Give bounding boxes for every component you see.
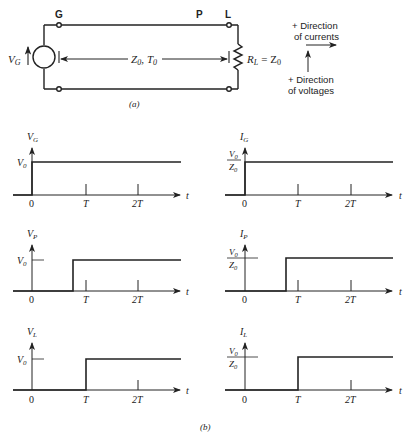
line-parameters-label: Z0,T0 xyxy=(131,53,157,67)
y-label: VP xyxy=(27,228,38,241)
node-label-p: P xyxy=(196,9,203,20)
legend-voltages-line2: of voltages xyxy=(288,85,334,96)
tick-2t: 2T xyxy=(345,198,357,209)
plot-ig: IG V0 Z0 t 0 T 2T xyxy=(225,131,402,209)
legend-voltages-line1: + Direction xyxy=(288,74,334,85)
x-label: t xyxy=(186,385,189,396)
tick-2t: 2T xyxy=(345,294,357,305)
level-denominator: Z0 xyxy=(229,260,238,271)
tick-0: 0 xyxy=(242,294,247,305)
tick-t: T xyxy=(83,294,90,305)
waveform-vl xyxy=(13,359,181,390)
waveform-ig xyxy=(225,162,393,195)
tick-2t: 2T xyxy=(345,394,357,405)
level-numerator: V0 xyxy=(229,149,239,160)
plot-vl: VL V0 t 0 T 2T xyxy=(13,326,189,405)
level-denominator: Z0 xyxy=(229,162,238,173)
terminal-l-bottom xyxy=(227,87,232,92)
y-label: IL xyxy=(239,326,247,339)
waveform-ip xyxy=(225,258,393,291)
figure: G P L VG Z0,T0 RL= Z0 + Direction of cur… xyxy=(0,0,415,440)
plot-vp: VP V0 t 0 T 2T xyxy=(13,228,189,305)
waveform-vp xyxy=(13,260,181,291)
tick-0: 0 xyxy=(242,394,247,405)
x-label: t xyxy=(399,190,402,201)
node-label-g: G xyxy=(55,9,63,20)
tick-t: T xyxy=(83,394,90,405)
level-label: V0 xyxy=(17,255,27,268)
tick-t: T xyxy=(83,198,90,209)
waveform-il xyxy=(225,357,393,390)
tick-2t: 2T xyxy=(132,294,144,305)
tick-t: T xyxy=(295,394,302,405)
tick-0: 0 xyxy=(29,394,34,405)
x-label: t xyxy=(186,286,189,297)
level-label: V0 xyxy=(17,354,27,367)
tick-0: 0 xyxy=(29,294,34,305)
tick-2t: 2T xyxy=(132,198,144,209)
level-label: V0 xyxy=(17,157,27,170)
x-label: t xyxy=(399,286,402,297)
terminal-l-top xyxy=(227,23,232,28)
load-label: RL= Z0 xyxy=(246,53,281,67)
waveform-vg xyxy=(13,162,181,195)
plot-ip: IP V0 Z0 t 0 T 2T xyxy=(225,228,402,305)
tick-t: T xyxy=(295,294,302,305)
source-label: VG xyxy=(8,53,21,67)
legend-currents-line1: + Direction xyxy=(292,20,338,31)
load-resistor-icon xyxy=(234,44,242,70)
caption-a: (a) xyxy=(129,99,140,109)
tick-t: T xyxy=(295,198,302,209)
legend-currents-line2: of currents xyxy=(294,31,339,42)
terminal-g-bottom xyxy=(57,87,62,92)
voltage-source-icon xyxy=(33,46,55,68)
y-label: VG xyxy=(27,131,38,144)
tick-2t: 2T xyxy=(132,394,144,405)
plot-vg: VG V0 t 0 T 2T xyxy=(13,131,189,209)
x-label: t xyxy=(186,190,189,201)
y-label: IG xyxy=(239,131,248,144)
tick-0: 0 xyxy=(29,198,34,209)
tick-0: 0 xyxy=(242,198,247,209)
terminal-g-top xyxy=(57,23,62,28)
y-label: VL xyxy=(27,326,37,339)
caption-b: (b) xyxy=(200,422,211,432)
node-label-l: L xyxy=(225,9,231,20)
level-numerator: V0 xyxy=(229,247,239,258)
x-label: t xyxy=(399,385,402,396)
plot-il: IL V0 Z0 t 0 T 2T xyxy=(225,326,402,405)
level-denominator: Z0 xyxy=(229,359,238,370)
y-label: IP xyxy=(239,228,248,241)
level-numerator: V0 xyxy=(229,346,239,357)
